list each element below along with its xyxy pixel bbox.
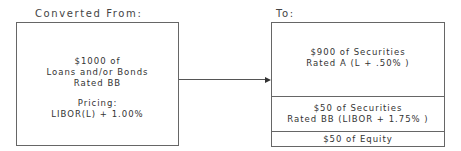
- source-title: Converted From:: [35, 8, 142, 19]
- source-amount: $1000 of: [17, 56, 178, 67]
- arrow-line: [179, 79, 266, 80]
- tranche-senior-rating: Rated A (L + .50% ): [272, 58, 444, 69]
- tranche-equity: $50 of Equity: [272, 131, 444, 147]
- tranche-equity-amount: $50 of Equity: [272, 134, 444, 145]
- source-box: $1000 of Loans and/or Bonds Rated BB Pri…: [16, 22, 179, 146]
- tranche-senior-amount: $900 of Securities: [272, 47, 444, 58]
- target-box: $900 of Securities Rated A (L + .50% ) $…: [271, 22, 445, 147]
- tranche-senior: $900 of Securities Rated A (L + .50% ): [272, 23, 444, 96]
- source-pricing-label: Pricing:: [17, 98, 178, 109]
- source-rating: Rated BB: [17, 78, 178, 89]
- tranche-mezzanine: $50 of Securities Rated BB (LIBOR + 1.75…: [272, 96, 444, 131]
- source-pricing-value: LIBOR(L) + 1.00%: [17, 109, 178, 120]
- target-title: To:: [276, 8, 295, 19]
- tranche-mezzanine-rating: Rated BB (LIBOR + 1.75% ): [272, 114, 444, 125]
- source-asset-type: Loans and/or Bonds: [17, 67, 178, 78]
- tranche-mezzanine-amount: $50 of Securities: [272, 103, 444, 114]
